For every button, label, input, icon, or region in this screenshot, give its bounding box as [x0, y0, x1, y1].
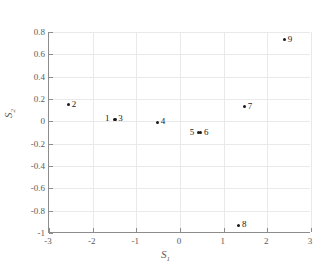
gridline-vertical — [311, 32, 312, 232]
data-point-marker — [156, 121, 159, 124]
x-axis-label-subscript: 1 — [167, 255, 171, 263]
tick-label-y: 0.2 — [11, 94, 45, 104]
x-axis-label: S1 — [0, 248, 331, 263]
tick-mark-x — [311, 228, 312, 232]
data-point-label: 2 — [72, 100, 77, 109]
tick-mark-x — [267, 228, 268, 232]
gridline-horizontal — [49, 54, 310, 55]
gridline-vertical — [224, 32, 225, 232]
y-axis-label-subscript: 2 — [9, 109, 17, 113]
tick-mark-x — [49, 228, 50, 232]
gridline-horizontal — [49, 166, 310, 167]
scatter-plot-figure: 123456789 -3-2-10123 -1-0.8-0.6-0.4-0.20… — [0, 0, 331, 271]
tick-mark-x — [93, 228, 94, 232]
tick-mark-y — [49, 188, 53, 189]
tick-label-x: 2 — [253, 236, 279, 246]
plot-area: 123456789 — [48, 32, 310, 233]
gridline-vertical — [180, 32, 181, 232]
data-point-marker — [199, 131, 202, 134]
tick-label-y: -0.4 — [11, 161, 45, 171]
tick-label-x: -1 — [122, 236, 148, 246]
gridline-horizontal — [49, 211, 310, 212]
data-point-label: 7 — [248, 102, 253, 111]
data-point-label: 4 — [161, 117, 166, 126]
tick-mark-y — [49, 121, 53, 122]
tick-mark-y — [49, 77, 53, 78]
data-point-label: 6 — [204, 128, 209, 137]
tick-mark-y — [49, 99, 53, 100]
data-point-marker — [243, 105, 246, 108]
data-point-label: 9 — [288, 35, 293, 44]
tick-label-y: 0.8 — [11, 27, 45, 37]
gridline-horizontal — [49, 144, 310, 145]
tick-label-y: -0.8 — [11, 206, 45, 216]
data-point-marker — [114, 118, 117, 121]
tick-mark-x — [224, 228, 225, 232]
data-point-marker — [283, 38, 286, 41]
tick-mark-y — [49, 32, 53, 33]
tick-label-x: 0 — [166, 236, 192, 246]
y-axis-label-base: S — [2, 113, 14, 119]
tick-label-x: 1 — [210, 236, 236, 246]
gridline-vertical — [136, 32, 137, 232]
y-axis-label: S2 — [2, 109, 17, 118]
tick-mark-y — [49, 166, 53, 167]
data-point-marker — [237, 224, 240, 227]
gridline-horizontal — [49, 121, 310, 122]
data-point-label: 8 — [242, 220, 247, 229]
tick-mark-y — [49, 233, 53, 234]
gridline-horizontal — [49, 188, 310, 189]
gridline-vertical — [93, 32, 94, 232]
gridline-horizontal — [49, 77, 310, 78]
data-point-label: 3 — [118, 114, 123, 123]
tick-mark-y — [49, 144, 53, 145]
tick-label-y: -1 — [11, 228, 45, 238]
tick-label-x: -2 — [79, 236, 105, 246]
gridline-vertical — [267, 32, 268, 232]
gridline-horizontal — [49, 99, 310, 100]
tick-label-y: 0.4 — [11, 72, 45, 82]
data-point-label: 1 — [105, 114, 110, 123]
tick-label-y: -0.2 — [11, 139, 45, 149]
tick-mark-y — [49, 211, 53, 212]
tick-label-y: -0.6 — [11, 183, 45, 193]
tick-mark-x — [136, 228, 137, 232]
data-point-label: 5 — [190, 128, 195, 137]
data-point-marker — [67, 103, 70, 106]
tick-mark-y — [49, 54, 53, 55]
tick-label-y: 0.6 — [11, 49, 45, 59]
tick-mark-x — [180, 228, 181, 232]
gridline-horizontal — [49, 32, 310, 33]
tick-label-x: 3 — [297, 236, 323, 246]
